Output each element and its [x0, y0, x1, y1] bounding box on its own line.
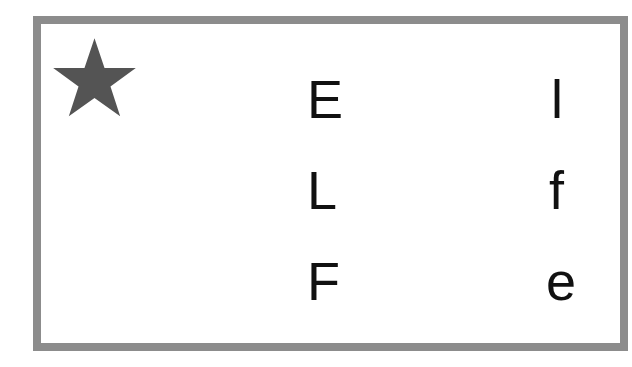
- letter-left-3: F: [307, 254, 340, 308]
- letter-right-3: e: [546, 254, 576, 308]
- letter-left-2: L: [307, 163, 337, 217]
- star-icon: [52, 37, 137, 120]
- letter-right-1: l: [551, 72, 563, 126]
- letter-left-1: E: [307, 72, 343, 126]
- letter-right-2: f: [549, 163, 564, 217]
